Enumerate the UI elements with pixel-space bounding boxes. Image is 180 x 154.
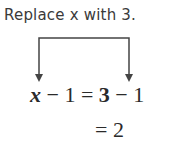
substituted-value: 3 bbox=[99, 82, 110, 107]
lhs-rest: − 1 = bbox=[41, 82, 99, 107]
substitution-arrows bbox=[0, 0, 180, 154]
variable-x: x bbox=[30, 82, 41, 107]
arrow-down-icon bbox=[125, 74, 133, 82]
arrow-down-icon bbox=[35, 74, 43, 82]
equation-line-1: x − 1 = 3 − 1 bbox=[30, 82, 144, 108]
rhs-rest: − 1 bbox=[110, 82, 144, 107]
equation-line-2: = 2 bbox=[95, 117, 124, 143]
